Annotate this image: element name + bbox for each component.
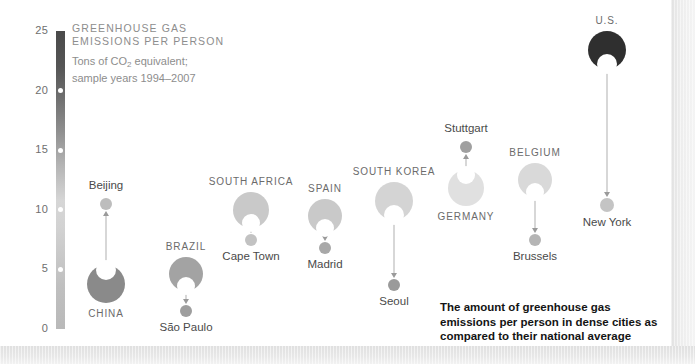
plot-area: 2520151050 GREENHOUSE GAS EMISSIONS PER … bbox=[0, 0, 671, 346]
pair-group-u-s-: U.S.New York bbox=[0, 0, 671, 346]
caption-line-3: compared to their national average bbox=[440, 330, 631, 342]
bottom-frame-band bbox=[0, 346, 695, 364]
chart-caption: The amount of greenhouse gas emissions p… bbox=[440, 300, 664, 344]
right-frame-band bbox=[671, 0, 695, 364]
caption-line-2: emissions per person in dense cities as bbox=[440, 316, 657, 328]
connector-line bbox=[607, 67, 608, 192]
country-label: U.S. bbox=[595, 15, 618, 26]
arrowhead-down bbox=[604, 192, 610, 197]
chart-page: 2520151050 GREENHOUSE GAS EMISSIONS PER … bbox=[0, 0, 695, 364]
city-label: New York bbox=[583, 216, 632, 228]
caption-line-1: The amount of greenhouse gas bbox=[440, 301, 611, 313]
circle-notch bbox=[597, 54, 617, 74]
city-circle bbox=[600, 198, 614, 212]
country-circle bbox=[588, 31, 626, 69]
